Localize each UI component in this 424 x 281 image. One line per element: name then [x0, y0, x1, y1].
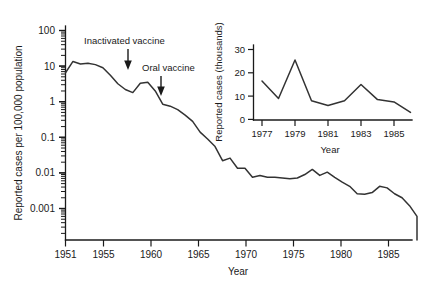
inset-x-ticklabel-1985: 1985 [383, 128, 404, 139]
y-ticklabel-100: 100 [38, 25, 55, 36]
inset-x-ticklabel-1983: 1983 [350, 128, 371, 139]
y-ticklabel-0point001: 0.001 [30, 203, 55, 214]
inset-y-ticklabel-20: 20 [234, 67, 245, 78]
annotation-inactivated-label: Inactivated vaccine [84, 35, 165, 46]
y-ticklabel-10: 10 [44, 61, 56, 72]
x-ticklabel-1951: 1951 [54, 249, 77, 260]
main-x-axis-title: Year [228, 266, 249, 277]
x-ticklabel-1985: 1985 [377, 249, 400, 260]
inset-x-ticklabel-1977: 1977 [251, 128, 272, 139]
main-y-axis-title: Reported cases per 100,000 population [13, 45, 24, 220]
inset-y-ticklabel-0: 0 [240, 114, 245, 125]
annotation-oral-label: Oral vaccine [142, 62, 195, 73]
inset-y-ticklabel-30: 30 [234, 44, 245, 55]
inset-x-ticklabel-1981: 1981 [317, 128, 338, 139]
inset-y-ticklabel-10: 10 [234, 91, 245, 102]
x-ticklabel-1980: 1980 [330, 249, 353, 260]
x-ticklabel-1975: 1975 [282, 249, 305, 260]
y-ticklabel-0point01: 0.01 [36, 167, 56, 178]
figure-root: 100 10 1 0.1 0.01 0.001 1951 1955 1960 1… [0, 0, 424, 281]
polio-incidence-chart: 100 10 1 0.1 0.01 0.001 1951 1955 1960 1… [0, 0, 424, 281]
y-ticklabel-0point1: 0.1 [41, 132, 55, 143]
inset-y-axis-title: Reported cases (thousands) [213, 22, 224, 141]
x-ticklabel-1970: 1970 [235, 249, 258, 260]
x-ticklabel-1960: 1960 [140, 249, 163, 260]
x-ticklabel-1955: 1955 [92, 249, 115, 260]
inset-x-ticklabel-1979: 1979 [284, 128, 305, 139]
y-ticklabel-1: 1 [49, 96, 55, 107]
inset-x-axis-title: Year [320, 144, 339, 155]
x-ticklabel-1965: 1965 [187, 249, 210, 260]
